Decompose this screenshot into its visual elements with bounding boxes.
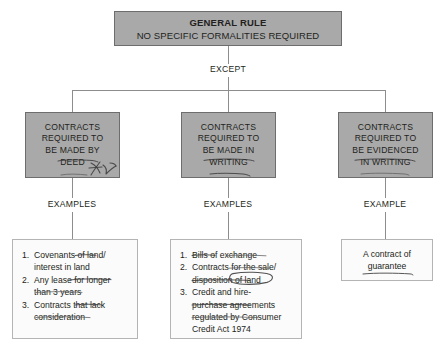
connector-examples-to-list-deed (72, 212, 73, 239)
list-item: 3. Contracts that lack consideration (22, 299, 105, 324)
list-item-line: Credit and hire- (192, 286, 281, 298)
general-rule-box: GENERAL RULE NO SPECIFIC FORMALITIES REQ… (114, 11, 342, 46)
except-label: EXCEPT (188, 64, 268, 74)
list-item-number: 2. (22, 274, 34, 299)
list-item-line: disposition of land (192, 274, 276, 286)
list-item: 2. Contracts for the sale/ disposition o… (180, 261, 276, 286)
examples-box-deed: 1. Covenants of land/ interest in land 2… (12, 239, 138, 339)
category-writing-line-4: WRITING (209, 157, 248, 169)
list-item-number: 1. (22, 249, 34, 274)
list-item: 3. Credit and hire- purchase agreements … (180, 286, 281, 336)
category-evidenced-line-3: BE EVIDENCED (352, 145, 418, 157)
category-writing-line-1: CONTRACTS (201, 122, 256, 134)
category-deed-line-2: REQUIRED TO (42, 133, 104, 145)
examples-label-writing: EXAMPLES (188, 199, 268, 209)
list-item: 2. Any lease for longer than 3 years (22, 274, 110, 299)
general-rule-subtitle: NO SPECIFIC FORMALITIES REQUIRED (137, 29, 320, 42)
connector-except-to-bar (228, 77, 229, 90)
list-item-number: 2. (180, 261, 192, 286)
connector-deed-to-examples (72, 178, 73, 198)
list-item: 1. Bills of exchange (180, 249, 257, 261)
connector-examples-to-list-writing (228, 212, 229, 239)
example-box-evidenced: A contract of guarantee (341, 239, 433, 281)
category-deed-line-1: CONTRACTS (45, 122, 100, 134)
connector-title-to-except (228, 46, 229, 64)
connector-bar-to-deed (72, 90, 73, 112)
list-item-line: purchase agreements (192, 299, 281, 311)
category-evidenced-line-4: IN WRITING (360, 157, 410, 169)
category-evidenced-line-2: REQUIRED TO (355, 133, 417, 145)
list-item-line: Bills of exchange (192, 249, 257, 261)
list-item-line: Covenants of land/ (34, 249, 106, 261)
category-writing-line-3: BE MADE IN (203, 145, 255, 157)
list-item-line: Any lease for longer (34, 274, 110, 286)
examples-box-writing: 1. Bills of exchange 2. Contracts for th… (170, 239, 302, 339)
category-box-in-writing: CONTRACTS REQUIRED TO BE MADE IN WRITING (181, 112, 276, 178)
examples-label-deed: EXAMPLES (32, 199, 112, 209)
connector-example-to-list-evidenced (385, 212, 386, 239)
category-box-evidenced-in-writing: CONTRACTS REQUIRED TO BE EVIDENCED IN WR… (338, 112, 433, 178)
example-label-evidenced: EXAMPLE (345, 199, 425, 209)
list-item-line: Contracts for the sale/ (192, 261, 276, 273)
connector-bar-to-evidenced (385, 90, 386, 112)
list-item-number: 3. (22, 299, 34, 324)
category-box-deed: CONTRACTS REQUIRED TO BE MADE BY DEED (25, 112, 120, 178)
list-item-line: Credit Act 1974 (192, 323, 281, 335)
list-item-line: consideration (34, 311, 105, 323)
connector-bar-to-writing (228, 90, 229, 112)
list-item-line: interest in land (34, 261, 106, 273)
category-deed-line-4: DEED (60, 157, 85, 169)
category-evidenced-line-1: CONTRACTS (358, 122, 413, 134)
category-deed-line-3: BE MADE BY (45, 145, 100, 157)
example-line-2: guarantee (368, 260, 407, 273)
list-item: 1. Covenants of land/ interest in land (22, 249, 106, 274)
list-item-number: 1. (180, 249, 192, 261)
category-writing-line-2: REQUIRED TO (198, 133, 260, 145)
list-item-line: regulated by Consumer (192, 311, 281, 323)
example-line-1: A contract of (363, 248, 411, 261)
list-item-line: than 3 years (34, 286, 110, 298)
connector-writing-to-examples (228, 178, 229, 198)
list-item-number: 3. (180, 286, 192, 336)
general-rule-title: GENERAL RULE (189, 16, 266, 29)
flowchart-diagram: GENERAL RULE NO SPECIFIC FORMALITIES REQ… (0, 0, 446, 354)
connector-evidenced-to-example (385, 178, 386, 198)
list-item-line: Contracts that lack (34, 299, 105, 311)
